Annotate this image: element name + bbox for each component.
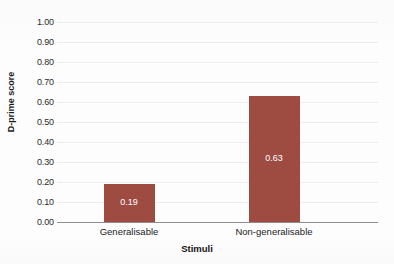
y-axis-tick-label: 0.20: [18, 177, 54, 187]
y-axis-tick-label: 0.10: [18, 197, 54, 207]
gridline: [57, 42, 378, 43]
bar-chart-figure: D-prime score 1.000.900.800.700.600.500.…: [0, 0, 394, 264]
gridline: [57, 142, 378, 143]
bar-value-label: 0.19: [104, 197, 155, 207]
y-axis-tick-labels: 1.000.900.800.700.600.500.400.300.200.10…: [14, 22, 54, 223]
plot-area: 0.190.63: [57, 22, 378, 223]
gridline: [57, 22, 378, 23]
gridline: [57, 62, 378, 63]
bar[interactable]: 0.19: [104, 184, 155, 222]
y-axis-tick-label: 1.00: [18, 17, 54, 27]
y-axis-tick-label: 0.00: [18, 217, 54, 227]
gridline: [57, 162, 378, 163]
bar[interactable]: 0.63: [249, 96, 300, 222]
bar-value-label: 0.63: [249, 153, 300, 163]
gridline: [57, 102, 378, 103]
gridline: [57, 82, 378, 83]
y-axis-tick-label: 0.90: [18, 37, 54, 47]
x-axis-tick-label-generalisable: Generalisable: [59, 226, 199, 237]
y-axis-tick-label: 0.70: [18, 77, 54, 87]
y-axis-tick-label: 0.30: [18, 157, 54, 167]
x-axis-line: [57, 222, 378, 223]
x-axis-title: Stimuli: [0, 243, 394, 254]
y-axis-tick-label: 0.40: [18, 137, 54, 147]
y-axis-tick-label: 0.60: [18, 97, 54, 107]
x-axis-tick-label-non-generalisable: Non-generalisable: [204, 226, 344, 237]
gridline: [57, 182, 378, 183]
y-axis-tick-label: 0.80: [18, 57, 54, 67]
gridline: [57, 122, 378, 123]
y-axis-tick-label: 0.50: [18, 117, 54, 127]
